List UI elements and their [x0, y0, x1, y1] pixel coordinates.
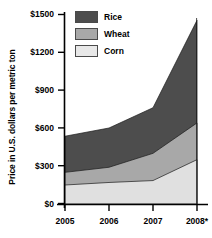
chart-legend: Rice Wheat Corn [75, 9, 130, 60]
x-axis-ticks [65, 205, 197, 211]
x-tick-label-2005: 2005 [45, 216, 85, 226]
legend-swatch-wheat [75, 28, 98, 40]
x-tick-label-2007: 2007 [133, 216, 173, 226]
legend-label-wheat: Wheat [104, 29, 130, 39]
legend-swatch-corn [75, 45, 98, 57]
legend-swatch-rice [75, 11, 98, 23]
x-tick-label-2008: 2008* [177, 216, 212, 226]
legend-item-wheat: Wheat [75, 26, 130, 41]
y-axis-ticks [58, 15, 64, 204]
legend-item-rice: Rice [75, 9, 130, 24]
legend-item-corn: Corn [75, 43, 130, 58]
x-tick-label-2006: 2006 [89, 216, 129, 226]
legend-label-rice: Rice [104, 12, 122, 22]
legend-label-corn: Corn [104, 46, 124, 56]
chart-container: Price in U.S. dollars per metric ton $15… [0, 0, 212, 238]
